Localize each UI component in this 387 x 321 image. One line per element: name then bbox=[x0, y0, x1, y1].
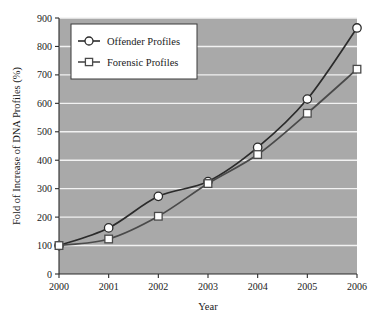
legend-circle-marker bbox=[85, 37, 93, 45]
y-axis-tick-label: 300 bbox=[37, 183, 52, 194]
chart-legend: Offender ProfilesForensic Profiles bbox=[71, 24, 197, 79]
legend-square-marker bbox=[85, 58, 92, 65]
square-marker bbox=[353, 65, 361, 73]
y-axis-tick-label: 0 bbox=[47, 269, 52, 280]
square-marker bbox=[254, 151, 262, 159]
y-axis-tick-label: 600 bbox=[37, 98, 52, 109]
circle-marker bbox=[104, 224, 112, 232]
circle-marker bbox=[303, 95, 311, 103]
y-axis-ticks bbox=[55, 18, 59, 274]
x-axis-tick-labels: 2000200120022003200420052006 bbox=[49, 281, 367, 292]
x-axis-tick-label: 2004 bbox=[248, 281, 268, 292]
circle-marker bbox=[353, 24, 361, 32]
x-axis-tick-label: 2006 bbox=[347, 281, 367, 292]
legend-box bbox=[71, 24, 197, 79]
y-axis-tick-label: 100 bbox=[37, 240, 52, 251]
line-chart: 0100200300400500600700800900 20002001200… bbox=[0, 0, 387, 321]
y-axis-tick-label: 200 bbox=[37, 212, 52, 223]
x-axis-tick-label: 2001 bbox=[99, 281, 119, 292]
x-axis-title: Year bbox=[198, 301, 218, 312]
legend-label: Forensic Profiles bbox=[107, 57, 178, 68]
legend-label: Offender Profiles bbox=[107, 36, 180, 47]
y-axis-tick-label: 500 bbox=[37, 126, 52, 137]
y-axis-tick-label: 400 bbox=[37, 155, 52, 166]
chart-figure: 0100200300400500600700800900 20002001200… bbox=[0, 0, 387, 321]
circle-marker bbox=[154, 192, 162, 200]
square-marker bbox=[304, 109, 312, 117]
square-marker bbox=[204, 180, 212, 188]
square-marker bbox=[155, 212, 163, 220]
y-axis-tick-label: 900 bbox=[37, 13, 52, 24]
square-marker bbox=[105, 235, 113, 243]
y-axis-tick-labels: 0100200300400500600700800900 bbox=[37, 13, 52, 280]
x-axis-ticks bbox=[59, 274, 357, 278]
x-axis-tick-label: 2002 bbox=[148, 281, 168, 292]
y-axis-tick-label: 800 bbox=[37, 41, 52, 52]
x-axis-tick-label: 2003 bbox=[198, 281, 218, 292]
x-axis-tick-label: 2000 bbox=[49, 281, 69, 292]
y-axis-title: Fold of Increase of DNA Profiles (%) bbox=[11, 66, 23, 225]
x-axis-tick-label: 2005 bbox=[297, 281, 317, 292]
square-marker bbox=[55, 242, 63, 250]
y-axis-tick-label: 700 bbox=[37, 69, 52, 80]
